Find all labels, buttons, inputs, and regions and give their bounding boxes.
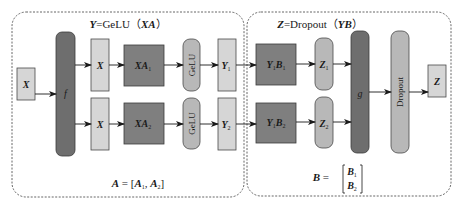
gelu-top-label: GeLU: [187, 53, 197, 76]
input-x-label: X: [22, 79, 30, 90]
output-z-label: Z: [433, 76, 440, 87]
diagram-canvas: Y=GeLU（XA） Z=Dropout（YB） X f X X XA1 XA2…: [0, 0, 462, 207]
svg-text:B =: B =: [312, 171, 329, 183]
gelu-bottom-label: GeLU: [187, 112, 197, 135]
left-panel-title: Y=GeLU（XA）: [89, 18, 166, 30]
svg-text:B1: B1: [346, 166, 357, 178]
right-panel-footer: B = B1 B2: [312, 165, 362, 193]
x-bottom-label: X: [96, 119, 104, 130]
x-top-label: X: [96, 60, 104, 71]
right-panel-title: Z=Dropout（YB）: [276, 18, 363, 30]
dropout-label: Dropout: [395, 77, 405, 107]
merge-g-label: g: [358, 88, 363, 99]
left-panel-footer: A = [A1, A2]: [111, 177, 165, 190]
svg-text:B2: B2: [346, 180, 357, 192]
